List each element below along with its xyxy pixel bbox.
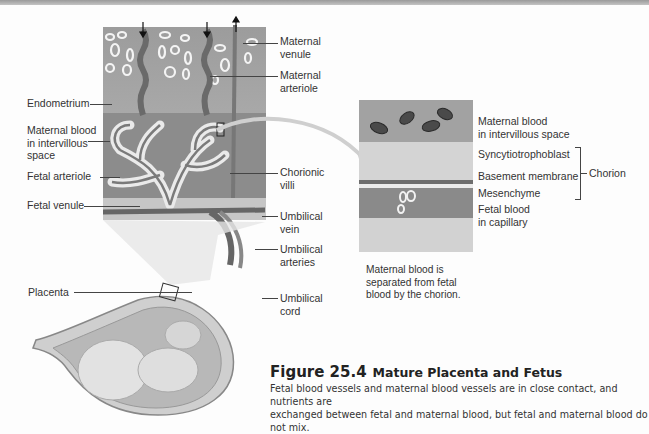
label-basement-membrane: Basement membrane	[478, 170, 578, 183]
page-top-border	[0, 0, 649, 5]
leader-maternal-blood	[88, 141, 110, 142]
leader-umbilical-vein	[262, 216, 278, 217]
leader-placenta	[74, 292, 192, 293]
leader-fetal-arteriole	[100, 177, 120, 178]
leader-umbilical-cord	[262, 298, 278, 299]
label-maternal-venule: Maternal venule	[280, 35, 321, 60]
chorion-bracket-tick	[581, 173, 587, 174]
leader-endometrium	[90, 104, 112, 105]
detail-note: Maternal blood is separated from fetal b…	[366, 264, 461, 302]
label-fetal-venule: Fetal venule	[27, 199, 84, 212]
label-mesenchyme: Mesenchyme	[478, 187, 540, 200]
chorion-detail-illustration	[359, 100, 473, 252]
leader-maternal-arteriole	[210, 76, 278, 77]
label-fetal-blood-capillary: Fetal blood in capillary	[478, 203, 530, 228]
label-maternal-arteriole: Maternal arteriole	[280, 69, 321, 94]
label-detail-maternal-blood: Maternal blood in intervillous space	[478, 115, 570, 140]
leader-umbilical-arteries	[255, 249, 278, 250]
zoom-arrow-icon	[215, 110, 375, 170]
label-endometrium: Endometrium	[27, 97, 89, 110]
label-maternal-blood-intervillous: Maternal blood in intervillous space	[27, 124, 96, 162]
chorion-bracket-top	[575, 147, 581, 148]
chorion-bracket-bottom	[575, 199, 581, 200]
figure-title: Figure 25.4Mature Placenta and Fetus	[270, 363, 562, 381]
figure-caption: Fetal blood vessels and maternal blood v…	[270, 382, 649, 434]
figure-number: Figure 25.4	[270, 363, 367, 381]
label-umbilical-cord: Umbilical cord	[280, 292, 323, 317]
label-placenta: Placenta	[28, 286, 69, 299]
leader-fetal-venule	[84, 206, 140, 207]
label-chorion: Chorion	[589, 167, 626, 180]
figure-name: Mature Placenta and Fetus	[373, 365, 563, 380]
label-fetal-arteriole: Fetal arteriole	[27, 170, 91, 183]
uterus-fetus-illustration	[28, 280, 238, 420]
leader-chorionic-villi	[230, 173, 278, 174]
leader-maternal-venule	[243, 43, 278, 44]
label-umbilical-vein: Umbilical vein	[280, 210, 323, 235]
label-syncytiotrophoblast: Syncytiotrophoblast	[478, 148, 570, 161]
label-umbilical-arteries: Umbilical arteries	[280, 243, 323, 268]
